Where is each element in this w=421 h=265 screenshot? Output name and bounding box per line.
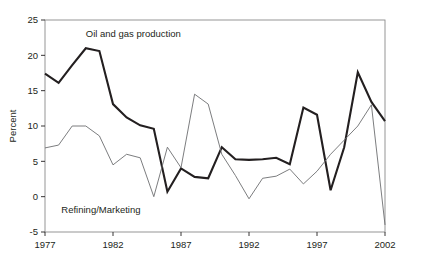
y-axis-tick-label: 0	[33, 191, 38, 202]
x-axis-tick-label: 1992	[238, 239, 259, 250]
y-axis-title: Percent	[7, 109, 18, 142]
y-axis-tick-label: 20	[27, 50, 38, 61]
y-axis-tick-label: 5	[33, 156, 38, 167]
x-axis-tick-label: 1977	[34, 239, 55, 250]
series-line-oil-and-gas-production	[45, 48, 385, 191]
x-axis-tick-label: 1997	[306, 239, 327, 250]
y-axis-tick-label: 25	[27, 14, 38, 25]
chart-container: -50510152025197719821987199219972002Perc…	[0, 0, 421, 265]
y-axis-tick-label: 10	[27, 120, 38, 131]
line-chart: -50510152025197719821987199219972002Perc…	[0, 0, 421, 265]
x-axis-tick-label: 2002	[374, 239, 395, 250]
series-label-oil-and-gas-production: Oil and gas production	[86, 28, 181, 39]
series-label-refining-marketing: Refining/Marketing	[61, 204, 140, 215]
x-axis-tick-label: 1987	[170, 239, 191, 250]
x-axis-tick-label: 1982	[102, 239, 123, 250]
plot-frame	[45, 20, 385, 232]
y-axis-tick-label: 15	[27, 85, 38, 96]
y-axis-tick-label: -5	[30, 226, 38, 237]
